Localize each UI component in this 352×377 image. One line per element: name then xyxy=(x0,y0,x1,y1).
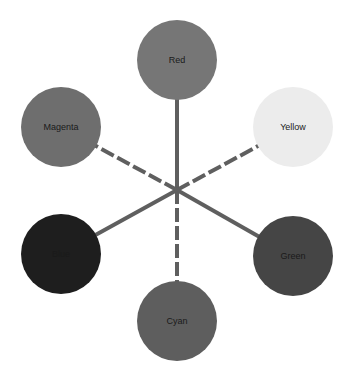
node-yellow: Yellow xyxy=(253,87,333,167)
node-magenta: Magenta xyxy=(21,87,101,167)
node-blue: Blue xyxy=(21,214,101,294)
node-cyan: Cyan xyxy=(137,281,217,361)
color-relationship-diagram: RedYellowGreenCyanBlueMagenta xyxy=(0,0,352,377)
node-label-cyan: Cyan xyxy=(166,316,187,326)
node-label-green: Green xyxy=(280,251,305,261)
node-red: Red xyxy=(137,20,217,100)
node-label-red: Red xyxy=(169,55,186,65)
node-label-yellow: Yellow xyxy=(280,122,306,132)
node-label-magenta: Magenta xyxy=(43,122,78,132)
node-label-blue: Blue xyxy=(52,249,70,259)
node-green: Green xyxy=(253,216,333,296)
